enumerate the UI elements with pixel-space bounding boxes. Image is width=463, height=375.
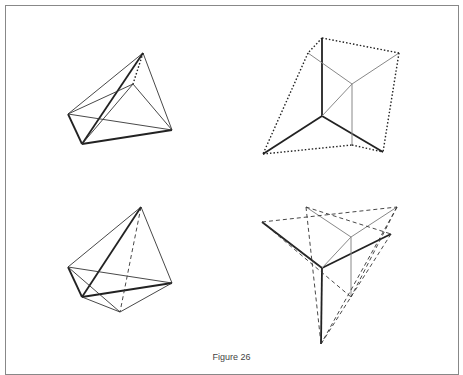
edge-R-BR [383, 53, 399, 152]
edge-T-R [141, 207, 172, 283]
edge-I-R [82, 283, 172, 297]
edge-C-B [321, 268, 322, 344]
edge-TR-MB [351, 207, 397, 297]
edge-L-R [68, 114, 172, 130]
edge-TR-B [321, 207, 397, 344]
edge-I-B [82, 84, 133, 144]
edge-T-U [308, 38, 322, 53]
edge-C-I [322, 84, 352, 116]
edge-TM-I [306, 207, 351, 237]
edge-T-R [322, 38, 399, 53]
edge-TM-RA [306, 207, 391, 234]
figure-top-right [263, 38, 399, 154]
edge-I-B [82, 297, 120, 312]
edge-T-R [143, 53, 172, 130]
edge-T-I [133, 53, 143, 84]
edge-U-I [308, 53, 352, 84]
edge-C-I [322, 237, 351, 268]
edge-T-L [68, 53, 143, 114]
edge-R-I [352, 53, 399, 84]
figure-caption: Figure 26 [0, 352, 463, 362]
edge-B-R [82, 130, 172, 144]
figure-bottom-right [262, 207, 397, 344]
edge-T-L [68, 207, 141, 267]
edge-L-I [68, 84, 133, 114]
edge-TR-I [351, 207, 397, 237]
edge-TM-B [306, 207, 321, 344]
edge-L-B [68, 114, 82, 144]
figure-bottom-left [68, 207, 172, 312]
figure-top-left [68, 53, 172, 144]
edge-I-R [133, 84, 172, 130]
edge-L-I [68, 267, 82, 297]
edge-T-B [82, 53, 143, 144]
